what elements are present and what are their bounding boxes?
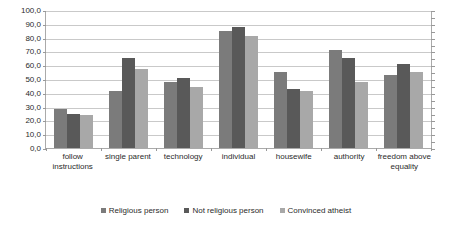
x-axis-tick — [266, 148, 267, 151]
bar-group — [376, 11, 431, 148]
right-axis-tick — [431, 135, 435, 136]
x-axis-tick — [431, 148, 432, 151]
bar[interactable] — [122, 58, 135, 148]
y-tick-label: 60,0 — [25, 62, 41, 70]
category-label: single parent — [100, 152, 155, 172]
bar[interactable] — [80, 115, 93, 148]
bar[interactable] — [232, 27, 245, 148]
right-axis-tick — [431, 108, 435, 109]
bar[interactable] — [274, 72, 287, 148]
y-tick-label: 40,0 — [25, 90, 41, 98]
bar[interactable] — [355, 82, 368, 148]
x-axis-tick — [156, 148, 157, 151]
x-axis-tick — [46, 148, 47, 151]
bar-group — [211, 11, 266, 148]
category-label: follow instructions — [45, 152, 100, 172]
right-axis-tick — [431, 128, 435, 129]
bar[interactable] — [410, 72, 423, 148]
y-tick-label: 80,0 — [25, 35, 41, 43]
y-axis: 100,090,080,070,060,050,040,030,020,010,… — [0, 11, 44, 149]
right-axis-tick — [431, 94, 435, 95]
right-axis-tick — [431, 101, 435, 102]
category-label: freedom above equality — [377, 152, 432, 172]
y-tick-label: 20,0 — [25, 117, 41, 125]
category-label: housewife — [266, 152, 321, 172]
bar[interactable] — [329, 50, 342, 148]
bars-layer — [46, 11, 431, 148]
right-axis-tick — [431, 52, 435, 53]
bar-group — [321, 11, 376, 148]
right-axis-tick — [431, 66, 435, 67]
x-axis: follow instructionssingle parenttechnolo… — [45, 152, 432, 172]
bar[interactable] — [287, 89, 300, 148]
bar[interactable] — [54, 109, 67, 148]
right-axis-tick — [431, 80, 435, 81]
bar-group — [101, 11, 156, 148]
bar[interactable] — [219, 31, 232, 148]
legend-label: Not religious person — [192, 206, 263, 215]
bar-group — [156, 11, 211, 148]
right-axis-tick — [431, 11, 435, 12]
right-axis-tick — [431, 59, 435, 60]
x-axis-tick — [376, 148, 377, 151]
bar[interactable] — [342, 58, 355, 148]
legend-swatch-icon — [184, 208, 189, 213]
x-axis-tick — [211, 148, 212, 151]
bar[interactable] — [245, 36, 258, 148]
x-axis-tick — [321, 148, 322, 151]
right-axis-tick — [431, 32, 435, 33]
legend-swatch-icon — [280, 208, 285, 213]
bar[interactable] — [397, 64, 410, 148]
legend-entry[interactable]: Not religious person — [184, 206, 263, 215]
legend-swatch-icon — [101, 208, 106, 213]
bar[interactable] — [164, 82, 177, 148]
category-label: authority — [321, 152, 376, 172]
bar-group — [46, 11, 101, 148]
category-label: technology — [156, 152, 211, 172]
y-tick-label: 10,0 — [25, 131, 41, 139]
right-axis-tick — [431, 18, 435, 19]
right-axis-tick — [431, 39, 435, 40]
right-axis-tick — [431, 25, 435, 26]
y-tick-label: 90,0 — [25, 21, 41, 29]
legend-label: Religious person — [109, 206, 169, 215]
right-axis-tick — [431, 121, 435, 122]
right-axis-tick — [431, 115, 435, 116]
plot-area — [45, 11, 432, 149]
bar[interactable] — [135, 69, 148, 148]
bar[interactable] — [109, 91, 122, 148]
bar[interactable] — [300, 91, 313, 148]
y-tick-label: 70,0 — [25, 48, 41, 56]
legend-entry[interactable]: Convinced atheist — [280, 206, 352, 215]
right-axis-tick — [431, 46, 435, 47]
right-axis-tick — [431, 87, 435, 88]
y-tick-label: 30,0 — [25, 104, 41, 112]
y-tick-label: 50,0 — [25, 76, 41, 84]
legend-entry[interactable]: Religious person — [101, 206, 169, 215]
y-tick-label: 100,0 — [21, 7, 41, 15]
bar-group — [266, 11, 321, 148]
bar[interactable] — [190, 87, 203, 148]
x-axis-tick — [101, 148, 102, 151]
bar[interactable] — [67, 114, 80, 149]
chart-legend: Religious personNot religious personConv… — [0, 206, 452, 215]
right-axis-tick — [431, 142, 435, 143]
y-tick-label: 0,0 — [30, 145, 41, 153]
category-label: individual — [211, 152, 266, 172]
bar[interactable] — [177, 78, 190, 148]
right-axis-tick — [431, 73, 435, 74]
bar-chart: 100,090,080,070,060,050,040,030,020,010,… — [0, 0, 452, 236]
legend-label: Convinced atheist — [288, 206, 352, 215]
bar[interactable] — [384, 75, 397, 148]
